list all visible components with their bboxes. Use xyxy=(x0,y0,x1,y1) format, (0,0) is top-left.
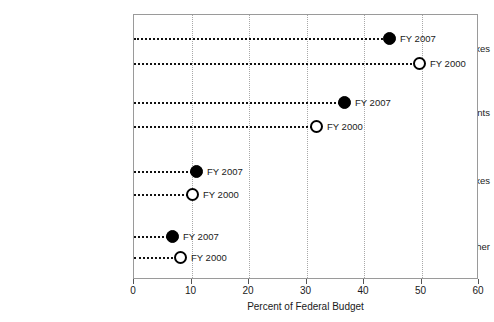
data-point-filled[interactable] xyxy=(166,230,179,243)
x-tick-label-60: 60 xyxy=(472,285,483,297)
data-point-open[interactable] xyxy=(413,57,426,70)
x-tick-10 xyxy=(191,279,192,284)
chart-figure: Individual income taxes Social insurance… xyxy=(0,0,494,322)
leader-line xyxy=(134,194,192,196)
data-point-filled[interactable] xyxy=(338,96,351,109)
x-tick-0 xyxy=(133,279,134,284)
x-tick-30 xyxy=(306,279,307,284)
data-point-label: FY 2000 xyxy=(327,121,363,132)
x-tick-label-10: 10 xyxy=(185,285,196,297)
data-point-label: FY 2007 xyxy=(183,231,219,242)
data-point-label: FY 2000 xyxy=(430,58,466,69)
x-tick-40 xyxy=(363,279,364,284)
x-tick-label-20: 20 xyxy=(242,285,253,297)
leader-line xyxy=(134,171,196,173)
x-tick-60 xyxy=(478,279,479,284)
x-tick-20 xyxy=(248,279,249,284)
x-tick-label-50: 50 xyxy=(415,285,426,297)
x-tick-50 xyxy=(421,279,422,284)
x-tick-label-40: 40 xyxy=(357,285,368,297)
leader-line xyxy=(134,102,344,104)
data-point-label: FY 2000 xyxy=(191,252,227,263)
data-point-label: FY 2000 xyxy=(203,189,239,200)
data-point-open[interactable] xyxy=(310,120,323,133)
data-point-label: FY 2007 xyxy=(355,97,391,108)
leader-line xyxy=(134,38,390,40)
leader-line xyxy=(134,63,420,65)
data-point-filled[interactable] xyxy=(190,165,203,178)
leader-line xyxy=(134,126,316,128)
gridline-20 xyxy=(249,15,250,278)
plot-area: FY 2007 FY 2000 FY 2007 FY 2000 FY 2007 … xyxy=(133,14,478,279)
x-tick-label-30: 30 xyxy=(300,285,311,297)
data-point-label: FY 2007 xyxy=(207,166,243,177)
gridline-40 xyxy=(364,15,365,278)
data-point-label: FY 2007 xyxy=(400,33,436,44)
data-point-open[interactable] xyxy=(186,188,199,201)
gridline-30 xyxy=(307,15,308,278)
gridline-50 xyxy=(422,15,423,278)
data-point-filled[interactable] xyxy=(383,32,396,45)
x-tick-label-0: 0 xyxy=(130,285,136,297)
data-point-open[interactable] xyxy=(174,251,187,264)
x-axis-title: Percent of Federal Budget xyxy=(133,301,478,313)
